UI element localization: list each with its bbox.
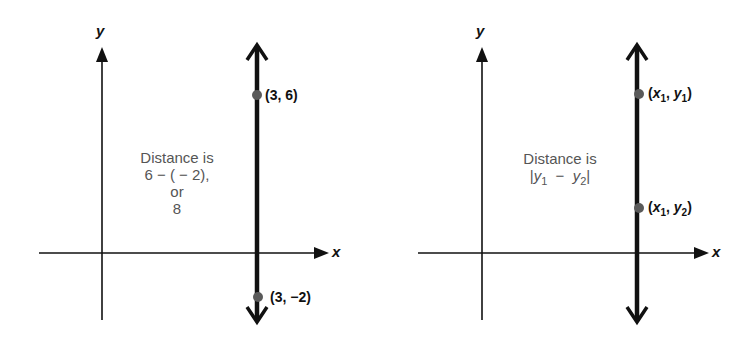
right-distance-annotation: Distance is |y1 − y2| bbox=[505, 150, 615, 190]
right-y-axis-label: y bbox=[476, 22, 484, 39]
right-x-axis-arrow-icon bbox=[694, 247, 709, 259]
right-point-label-top: (x1, y1) bbox=[648, 85, 692, 104]
left-x-axis-label: x bbox=[332, 243, 340, 260]
left-annotation-line3: or bbox=[122, 183, 232, 200]
left-annotation-line1: Distance is bbox=[122, 149, 232, 166]
right-y-axis-arrow-icon bbox=[476, 47, 488, 62]
left-annotation-line2: 6 − ( − 2), bbox=[122, 166, 232, 183]
diagram-canvas bbox=[0, 0, 750, 344]
right-x-axis-label: x bbox=[712, 243, 720, 260]
left-distance-annotation: Distance is 6 − ( − 2), or 8 bbox=[122, 149, 232, 217]
left-point-3-neg2 bbox=[253, 292, 263, 302]
left-x-axis-arrow-icon bbox=[314, 247, 329, 259]
right-annotation-line1: Distance is bbox=[505, 150, 615, 167]
sub-y: 2 bbox=[682, 207, 688, 218]
right-point-label-bottom: (x1, y2) bbox=[648, 199, 692, 218]
abs-sub-b: 2 bbox=[580, 175, 586, 187]
left-y-axis-arrow-icon bbox=[96, 47, 108, 62]
sub-y: 1 bbox=[682, 93, 688, 104]
left-point-label-top: (3, 6) bbox=[265, 87, 298, 103]
right-point-x1-y2 bbox=[634, 203, 644, 213]
left-y-axis-label: y bbox=[96, 22, 104, 39]
left-point-3-6 bbox=[252, 90, 262, 100]
right-annotation-abs-expression: |y1 − y2| bbox=[505, 167, 615, 190]
right-point-x1-y1 bbox=[634, 89, 644, 99]
left-annotation-line4: 8 bbox=[122, 200, 232, 217]
abs-minus: − bbox=[556, 167, 565, 184]
left-point-label-bottom: (3, −2) bbox=[270, 289, 311, 305]
sub-x: 1 bbox=[660, 207, 666, 218]
var-y: y bbox=[674, 85, 682, 101]
sub-x: 1 bbox=[660, 93, 666, 104]
abs-sub-a: 1 bbox=[541, 175, 547, 187]
var-y: y bbox=[674, 199, 682, 215]
